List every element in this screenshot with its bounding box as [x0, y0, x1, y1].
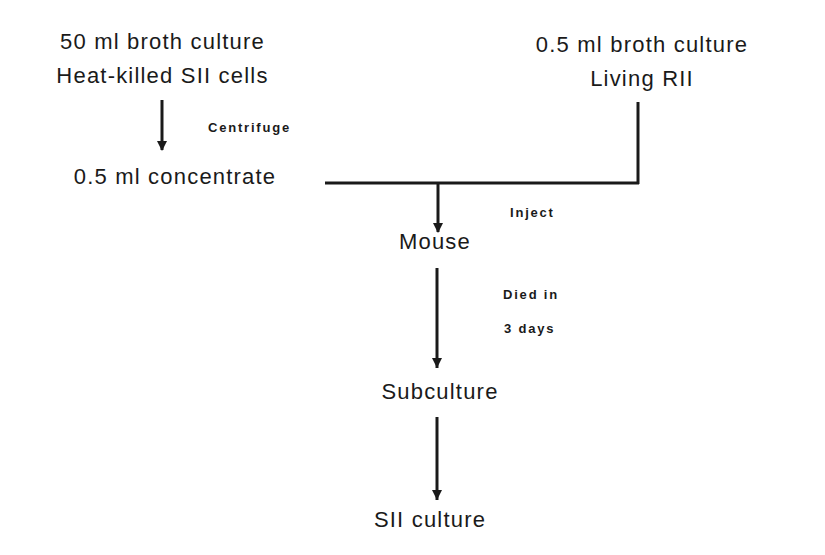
inject-label: Inject: [510, 205, 555, 220]
died-label-line2: 3 days: [504, 321, 555, 336]
source-left-line1: 50 ml broth culture: [40, 25, 285, 59]
source-right-line1: 0.5 ml broth culture: [522, 28, 762, 62]
subculture-node: Subculture: [360, 375, 520, 409]
source-left-node: 50 ml broth culture Heat-killed SII cell…: [40, 25, 285, 93]
result-node: SII culture: [355, 503, 505, 537]
centrifuge-label: Centrifuge: [208, 120, 291, 135]
source-right-line2: Living RII: [522, 62, 762, 96]
source-right-node: 0.5 ml broth culture Living RII: [522, 28, 762, 96]
mouse-node: Mouse: [380, 225, 490, 259]
died-label-line1: Died in: [503, 287, 559, 302]
concentrate-node: 0.5 ml concentrate: [50, 160, 300, 194]
source-left-line2: Heat-killed SII cells: [40, 59, 285, 93]
